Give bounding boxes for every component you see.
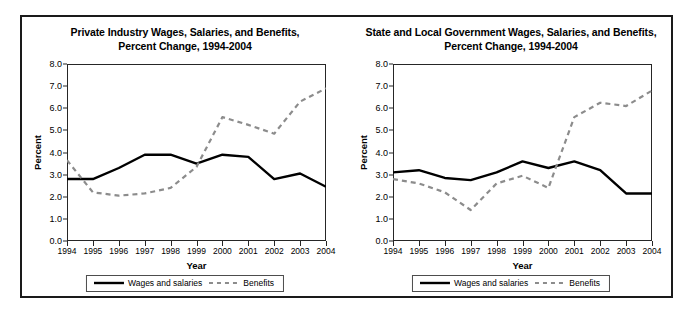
y-tick-label: 1.0	[49, 214, 62, 223]
x-tick-label: 1999	[187, 247, 206, 256]
y-tick-label: 1.0	[375, 214, 388, 223]
y-tick-label: 6.0	[375, 104, 388, 113]
legend-solid-line-swatch	[94, 279, 124, 287]
x-tick-label: 1998	[161, 247, 180, 256]
y-tick-mark	[63, 196, 67, 197]
legend-item-benefits: Benefits	[535, 279, 600, 288]
y-tick-label: 6.0	[49, 104, 62, 113]
y-tick-mark	[389, 218, 393, 219]
y-tick-mark	[389, 174, 393, 175]
x-tick-label: 2004	[643, 247, 662, 256]
series-line-wages-and-salaries	[67, 155, 326, 187]
y-tick-label: 8.0	[375, 60, 388, 69]
x-tick-label: 1995	[83, 247, 102, 256]
x-tick-label: 2004	[317, 247, 336, 256]
chart-panel-state-local-government: State and Local Government Wages, Salari…	[348, 17, 674, 296]
plot-area: 0.01.02.03.04.05.06.07.08.0 199419951996…	[393, 64, 652, 241]
legend-item-wages: Wages and salaries	[420, 279, 528, 288]
y-tick-mark	[63, 130, 67, 131]
y-tick-label: 4.0	[375, 148, 388, 157]
series-line-benefits	[67, 88, 326, 195]
y-tick-mark	[63, 218, 67, 219]
y-tick-mark	[63, 152, 67, 153]
legend-item-wages: Wages and salaries	[94, 279, 202, 288]
y-tick-mark	[63, 64, 67, 65]
x-tick-label: 1999	[513, 247, 532, 256]
chart-title-line-1: Private Industry Wages, Salaries, and Be…	[71, 26, 300, 38]
legend-label-wages: Wages and salaries	[454, 279, 528, 288]
x-tick-label: 1996	[435, 247, 454, 256]
y-axis-label: Percent	[356, 64, 370, 241]
x-tick-label: 2002	[591, 247, 610, 256]
x-axis-label: Year	[67, 260, 326, 271]
chart-legend: Wages and salaries Benefits	[412, 275, 610, 292]
y-tick-mark	[389, 152, 393, 153]
y-tick-label: 7.0	[49, 82, 62, 91]
series-line-benefits	[393, 91, 652, 210]
y-tick-label: 0.0	[49, 237, 62, 246]
legend-item-benefits: Benefits	[209, 279, 274, 288]
x-tick-label: 1998	[487, 247, 506, 256]
x-tick-label: 2003	[291, 247, 310, 256]
y-tick-mark	[389, 196, 393, 197]
plot-area: 0.01.02.03.04.05.06.07.08.0 199419951996…	[67, 64, 326, 241]
y-tick-label: 3.0	[49, 170, 62, 179]
chart-title-line-2: Percent Change, 1994-2004	[356, 40, 666, 54]
legend-dashed-line-swatch	[535, 279, 565, 287]
y-tick-label: 2.0	[49, 192, 62, 201]
figure-frame: Private Industry Wages, Salaries, and Be…	[20, 15, 673, 298]
chart-title-line-1: State and Local Government Wages, Salari…	[366, 26, 657, 38]
x-tick-label: 1996	[109, 247, 128, 256]
y-tick-label: 8.0	[49, 60, 62, 69]
x-tick-label: 2003	[617, 247, 636, 256]
x-tick-label: 1994	[58, 247, 77, 256]
y-axis-label: Percent	[30, 64, 44, 241]
y-tick-label: 5.0	[49, 126, 62, 135]
legend-solid-line-swatch	[420, 279, 450, 287]
y-tick-label: 0.0	[375, 237, 388, 246]
y-tick-mark	[63, 174, 67, 175]
y-tick-mark	[389, 64, 393, 65]
x-tick-label: 1994	[384, 247, 403, 256]
y-tick-label: 2.0	[375, 192, 388, 201]
x-tick-label: 1997	[135, 247, 154, 256]
x-tick-label: 2000	[539, 247, 558, 256]
y-tick-mark	[389, 108, 393, 109]
chart-title-line-2: Percent Change, 1994-2004	[30, 40, 340, 54]
x-tick-label: 1995	[409, 247, 428, 256]
y-tick-mark	[389, 130, 393, 131]
chart-title: Private Industry Wages, Salaries, and Be…	[30, 26, 340, 53]
x-tick-label: 2001	[565, 247, 584, 256]
y-tick-label: 4.0	[49, 148, 62, 157]
y-tick-mark	[63, 108, 67, 109]
x-tick-label: 2001	[239, 247, 258, 256]
y-tick-label: 3.0	[375, 170, 388, 179]
x-tick-label: 2000	[213, 247, 232, 256]
chart-panel-private-industry: Private Industry Wages, Salaries, and Be…	[22, 17, 348, 296]
legend-label-benefits: Benefits	[569, 279, 600, 288]
chart-lines-1	[393, 64, 652, 241]
x-tick-label: 2002	[265, 247, 284, 256]
legend-label-wages: Wages and salaries	[128, 279, 202, 288]
chart-lines-0	[67, 64, 326, 241]
legend-label-benefits: Benefits	[243, 279, 274, 288]
chart-title: State and Local Government Wages, Salari…	[356, 26, 666, 53]
x-tick-label: 1997	[461, 247, 480, 256]
chart-legend: Wages and salaries Benefits	[86, 275, 284, 292]
y-tick-label: 5.0	[375, 126, 388, 135]
x-axis-label: Year	[393, 260, 652, 271]
y-tick-mark	[63, 86, 67, 87]
legend-dashed-line-swatch	[209, 279, 239, 287]
y-tick-label: 7.0	[375, 82, 388, 91]
y-tick-mark	[389, 86, 393, 87]
